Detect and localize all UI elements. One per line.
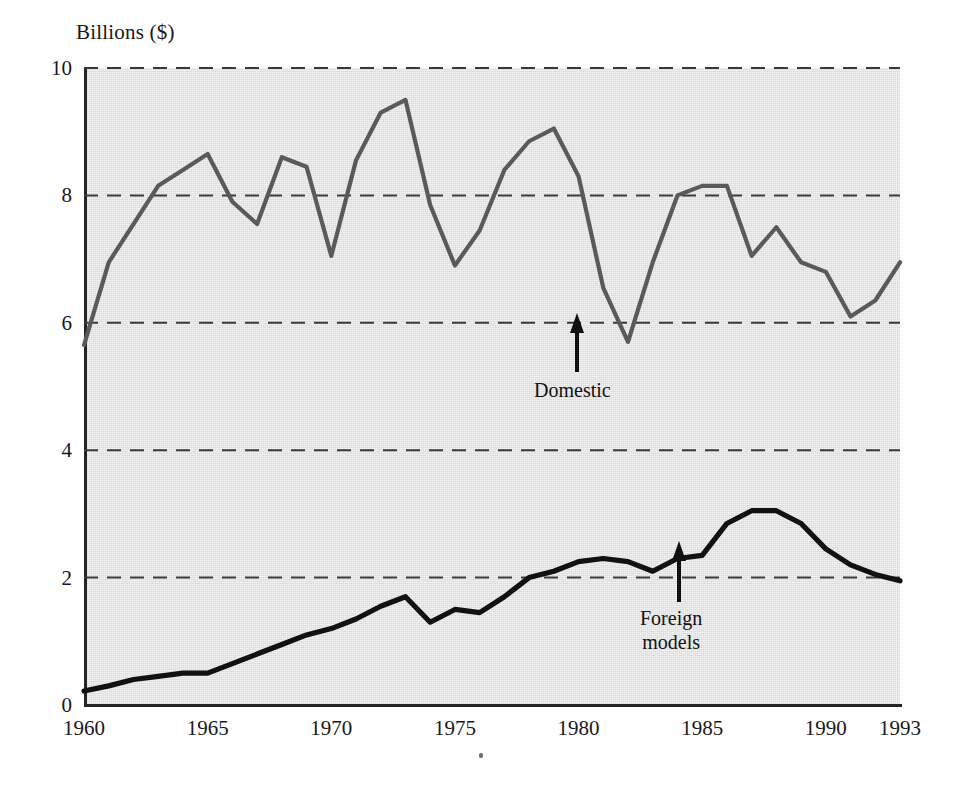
scan-speck [479,753,483,758]
annotation-domestic: Domestic [534,379,611,403]
x-tick-1990: 1990 [805,716,847,741]
data-series [84,100,900,691]
annotation-line: models [640,631,702,655]
gridlines [84,68,900,578]
x-tick-1980: 1980 [558,716,600,741]
x-tick-1985: 1985 [681,716,723,741]
annotation-foreign: Foreignmodels [640,607,702,654]
x-tick-1960: 1960 [63,716,105,741]
annotation-line: Domestic [534,379,611,403]
annotation-line: Foreign [640,607,702,631]
x-tick-1975: 1975 [434,716,476,741]
chart-canvas [0,0,958,789]
series-domestic [84,100,900,345]
chart-figure: Billions ($) 0246810 Domestic Foreignmod… [0,0,958,789]
x-tick-1993: 1993 [879,716,921,741]
foreign-arrow [672,541,686,602]
series-foreign-models [84,511,900,691]
x-tick-1970: 1970 [310,716,352,741]
x-tick-1965: 1965 [187,716,229,741]
